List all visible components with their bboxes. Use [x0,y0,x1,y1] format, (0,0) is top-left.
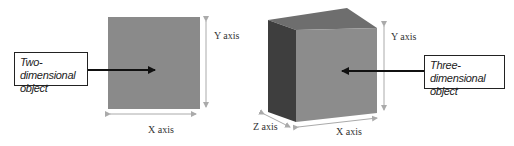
three-dimensional-label: Three-dimensional object [424,55,505,89]
cube-front-face [296,28,377,122]
two-dimensional-square [108,17,200,109]
right-x-axis-label: X axis [336,126,362,137]
left-x-axis-label: X axis [148,124,174,135]
two-dimensional-label-line1: Two-dimensional [20,56,82,82]
right-y-axis-label: Y axis [391,31,416,42]
two-dimensional-label: Two-dimensional object [14,52,88,86]
two-dimensional-label-line2: object [20,82,82,95]
three-dimensional-label-line1: Three-dimensional [430,59,499,85]
left-y-axis-label: Y axis [214,30,239,41]
cube-side-face [268,20,296,122]
right-z-axis-label: Z axis [253,121,278,132]
three-dimensional-label-line2: object [430,85,499,98]
